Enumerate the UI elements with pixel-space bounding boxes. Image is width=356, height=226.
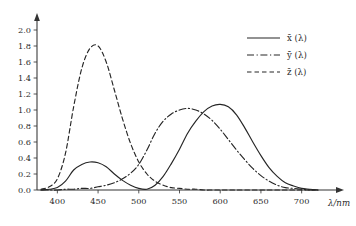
y-axis-tick-labels: 0.00.20.40.60.81.01.21.41.61.82.0 bbox=[18, 25, 31, 195]
y-tick-label: 2.0 bbox=[18, 25, 31, 35]
chart-legend: x̄ (λ)ȳ (λ)z̄ (λ) bbox=[247, 33, 307, 77]
x-tick-label: 650 bbox=[253, 196, 269, 206]
y-tick-label: 1.4 bbox=[18, 73, 31, 83]
legend-label-y: ȳ (λ) bbox=[286, 50, 307, 60]
x-tick-label: 500 bbox=[131, 196, 147, 206]
y-tick-label: 1.8 bbox=[18, 41, 31, 51]
y-tick-label: 1.2 bbox=[18, 89, 31, 99]
x-axis-arrowhead bbox=[336, 187, 344, 193]
curve-z bbox=[41, 45, 318, 190]
x-tick-label: 550 bbox=[172, 196, 188, 206]
y-tick-label: 1.0 bbox=[18, 105, 31, 115]
x-tick-label: 700 bbox=[294, 196, 310, 206]
color-matching-functions-chart: 0.00.20.40.60.81.01.21.41.61.82.0 400450… bbox=[0, 0, 356, 226]
x-axis-tick-labels: 400450500550600650700 bbox=[50, 196, 310, 206]
x-tick-label: 600 bbox=[212, 196, 228, 206]
curve-x bbox=[41, 104, 318, 190]
data-curves bbox=[41, 45, 318, 190]
y-axis-arrowhead bbox=[34, 13, 40, 21]
legend-label-x: x̄ (λ) bbox=[287, 33, 307, 43]
y-tick-label: 0.2 bbox=[18, 169, 31, 179]
y-tick-label: 0.0 bbox=[18, 185, 31, 195]
x-tick-label: 400 bbox=[50, 196, 66, 206]
x-tick-label: 450 bbox=[90, 196, 106, 206]
y-tick-label: 0.6 bbox=[18, 137, 31, 147]
y-tick-label: 0.8 bbox=[18, 121, 31, 131]
y-tick-label: 1.6 bbox=[18, 57, 31, 67]
legend-label-z: z̄ (λ) bbox=[287, 67, 306, 77]
y-tick-label: 0.4 bbox=[18, 153, 31, 163]
x-axis-label: λ/nm bbox=[327, 198, 350, 208]
